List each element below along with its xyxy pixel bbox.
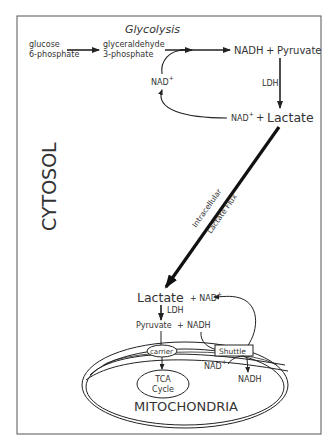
- inner-nadh-label: NADH: [238, 375, 262, 384]
- glyceraldehyde-3-phosphate-label-1: glyceraldehyde: [103, 40, 165, 49]
- cytosol-label: CYTOSOL: [38, 142, 60, 231]
- nad-recycle-label: NAD+: [151, 74, 174, 87]
- lactate-shuttle-diagram: Glycolysis glucose 6-phosphate glycerald…: [0, 0, 335, 447]
- glyceraldehyde-3-phosphate-label-2: 3-phosphate: [103, 50, 153, 59]
- tca-label-1: TCA: [154, 375, 171, 384]
- nad-out-label: NAD+: [231, 110, 254, 123]
- nadh-mito-label: NADH: [187, 321, 211, 330]
- inner-nad-label: NAD+: [204, 358, 227, 371]
- lactate-cytosol-label: Lactate: [267, 110, 314, 125]
- glucose-6-phosphate-label-1: glucose: [29, 40, 60, 49]
- ldh-mito-label: LDH: [167, 306, 184, 315]
- pyruvate-label: Pyruvate: [277, 45, 322, 56]
- shuttle-to-nad-arrow: [214, 296, 256, 349]
- nad-recycle-arrow-up: [161, 90, 227, 118]
- inner-membrane-top-1: [90, 354, 285, 375]
- nadh-label: NADH: [234, 45, 264, 56]
- plus-sign: +: [266, 45, 274, 56]
- shuttle-label: Shuttle: [219, 347, 246, 356]
- lactate-mito-label: Lactate: [137, 290, 184, 305]
- pyruvate-mito-label: Pyruvate: [136, 321, 172, 330]
- tca-label-2: Cycle: [152, 385, 174, 394]
- nad-recycle-arrow-join: [162, 50, 183, 74]
- plus-sign-2: +: [256, 112, 264, 123]
- carrier-label: carrier: [150, 348, 173, 356]
- glucose-6-phosphate-label-2: 6-phosphate: [29, 50, 79, 59]
- ldh-label: LDH: [262, 79, 279, 88]
- plus-sign-3: +: [177, 321, 184, 330]
- mitochondria-label: MITOCHONDRIA: [134, 399, 238, 414]
- glycolysis-title: Glycolysis: [125, 23, 180, 36]
